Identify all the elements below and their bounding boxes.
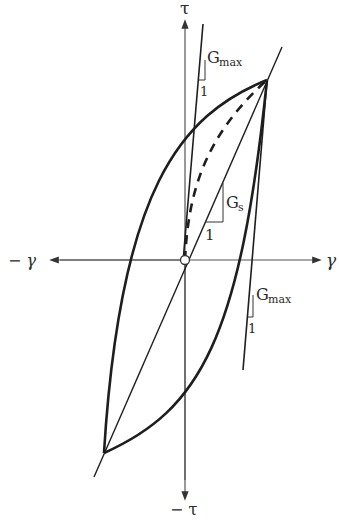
tau-label: τ <box>180 0 189 18</box>
gmax-bottom-one: 1 <box>248 321 256 336</box>
gmax-bottom-subscript: max <box>268 293 292 306</box>
neg-gamma-label: − γ <box>8 251 36 270</box>
gs-subscript: s <box>238 201 244 214</box>
gmax-top-subscript: max <box>219 56 243 69</box>
neg-tau-label: − τ <box>170 500 197 519</box>
gmax-top-one: 1 <box>200 84 208 99</box>
gmax-bottom-letter: G <box>256 285 269 304</box>
gamma-label: γ <box>326 250 337 270</box>
gmax-bottom-label: G max 1 <box>248 285 292 336</box>
hysteresis-diagram: τ − τ γ − γ G max 1 G s 1 G max 1 <box>0 0 339 523</box>
origin-marker <box>181 256 190 265</box>
gmax-tangent-top <box>183 24 203 262</box>
diagram-svg: τ − τ γ − γ G max 1 G s 1 G max 1 <box>0 0 339 523</box>
gmax-top-label: G max 1 <box>200 48 243 99</box>
gs-label: G s 1 <box>205 193 244 244</box>
gs-one: 1 <box>205 226 215 244</box>
gs-letter: G <box>226 193 239 212</box>
gmax-top-letter: G <box>207 48 220 67</box>
